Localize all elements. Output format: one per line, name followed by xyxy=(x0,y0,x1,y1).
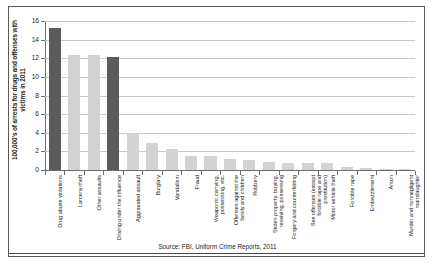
x-tick-label: Weapons: carrying, possessing, etc. xyxy=(213,175,231,241)
y-tick-mark xyxy=(41,21,45,22)
bar xyxy=(321,163,333,170)
x-tick-label: Stolen property: buying, receiving, poss… xyxy=(272,175,290,241)
y-tick-label: 12 xyxy=(15,54,39,61)
y-tick-mark xyxy=(41,58,45,59)
gridline xyxy=(45,21,415,22)
x-tick-label: Forcible rape xyxy=(349,175,367,241)
y-tick-label: 6 xyxy=(15,110,39,117)
bar xyxy=(224,159,236,170)
x-tick-label: Murder and nonnegligent manslaughter xyxy=(408,175,426,241)
bar xyxy=(399,169,411,170)
x-tick-label: Drug abuse violations xyxy=(57,175,75,241)
bar xyxy=(341,167,353,170)
caption-divider xyxy=(9,253,424,254)
y-tick-label: 4 xyxy=(15,129,39,136)
x-tick-label: Offenses against the family and children xyxy=(233,175,251,241)
x-tick-label: Forgery and counterfeiting xyxy=(291,175,309,241)
x-tick-label: Fraud xyxy=(194,175,212,241)
y-tick-mark xyxy=(41,40,45,41)
gridline xyxy=(45,114,415,115)
gridline xyxy=(45,151,415,152)
y-tick-label: 10 xyxy=(15,73,39,80)
y-tick-label: 0 xyxy=(15,166,39,173)
bar xyxy=(166,149,178,170)
gridline xyxy=(45,40,415,41)
y-tick-mark xyxy=(41,114,45,115)
bar xyxy=(68,55,80,170)
bar xyxy=(360,168,372,170)
y-tick-mark xyxy=(41,151,45,152)
x-tick-label: Larceny-theft xyxy=(77,175,95,241)
figure-panel: 100,000's of arrests for drugs and offen… xyxy=(8,6,425,257)
x-tick-label: Aggravated assault xyxy=(135,175,153,241)
x-tick-label: Motor vehicle theft xyxy=(330,175,348,241)
x-tick-label: Embezzlement xyxy=(369,175,387,241)
bar xyxy=(49,28,61,170)
gridline xyxy=(45,133,415,134)
y-tick-label: 8 xyxy=(15,92,39,99)
bar xyxy=(302,163,314,170)
y-tick-mark xyxy=(41,77,45,78)
plot-area xyxy=(45,21,415,170)
source-caption: Source: FBI, Uniform Crime Reports, 2011 xyxy=(9,243,426,250)
y-tick-label: 16 xyxy=(15,17,39,24)
y-tick-label: 14 xyxy=(15,36,39,43)
x-tick-label: Arson xyxy=(388,175,406,241)
x-axis-labels: Drug abuse violationsLarceny-theftOther … xyxy=(45,177,415,243)
x-tick-label: Burglary xyxy=(155,175,173,241)
x-tick-label: Vandalism xyxy=(174,175,192,241)
bar xyxy=(127,133,139,170)
bar xyxy=(107,57,119,170)
gridline xyxy=(45,58,415,59)
bar xyxy=(146,143,158,170)
bar xyxy=(282,163,294,170)
gridline xyxy=(45,96,415,97)
bar xyxy=(243,160,255,170)
gridline xyxy=(45,77,415,78)
y-tick-label: 2 xyxy=(15,147,39,154)
y-tick-mark xyxy=(41,133,45,134)
bar xyxy=(263,162,275,170)
x-tick-label: Driving under the influence xyxy=(116,175,134,241)
bar xyxy=(185,156,197,170)
x-tick-label: Sex offenses (except forcible rape and p… xyxy=(310,175,328,241)
x-tick-label: Robbery xyxy=(252,175,270,241)
bar xyxy=(88,55,100,170)
bar xyxy=(380,169,392,170)
y-tick-mark xyxy=(41,96,45,97)
bar xyxy=(204,156,216,170)
x-tick-label: Other assaults xyxy=(96,175,114,241)
x-tick-mark xyxy=(45,171,46,175)
